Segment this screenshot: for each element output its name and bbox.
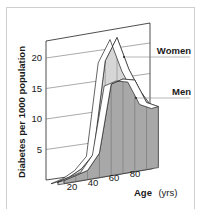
x-tick-label: 20: [67, 181, 78, 192]
legend-women: Women: [157, 45, 191, 56]
diabetes-age-chart: 5101520 20406080 Diabetes per 1000 popul…: [0, 0, 203, 209]
x-tick-label: 60: [109, 172, 120, 183]
y-tick-label: 5: [37, 144, 42, 155]
y-tick-label: 15: [31, 83, 42, 94]
y-axis-label: Diabetes per 1000 population: [16, 46, 27, 178]
y-axis-ticks: 5101520: [31, 52, 42, 155]
x-tick-label: 40: [88, 177, 99, 188]
x-axis-label: Age (yrs): [134, 182, 177, 199]
x-tick-label: 80: [130, 168, 141, 179]
y-tick-label: 10: [31, 113, 42, 124]
legend-men: Men: [172, 86, 191, 97]
y-tick-label: 20: [31, 52, 42, 63]
x-axis-label-bold: Age: [134, 187, 152, 198]
x-axis-label-unit: (yrs): [158, 187, 177, 198]
